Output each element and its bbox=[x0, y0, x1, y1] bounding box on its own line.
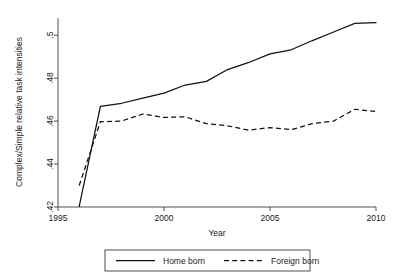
chart-figure: .42.44.46.48.5 1995200020052010 Complex/… bbox=[0, 0, 402, 278]
x-axis-title: Year bbox=[208, 228, 225, 238]
y-axis-ticks: .42.44.46.48.5 bbox=[45, 31, 58, 213]
legend-label-home-born: Home born bbox=[163, 256, 205, 266]
x-tick-label: 2000 bbox=[155, 213, 174, 223]
x-tick-label: 2010 bbox=[367, 213, 386, 223]
x-axis-ticks: 1995200020052010 bbox=[49, 207, 386, 223]
y-tick-label: .48 bbox=[45, 72, 55, 84]
x-tick-label: 2005 bbox=[261, 213, 280, 223]
y-tick-label: .5 bbox=[45, 31, 55, 38]
x-tick-label: 1995 bbox=[49, 213, 68, 223]
y-tick-label: .42 bbox=[45, 201, 55, 213]
y-axis-title: Complex/Simple relative task intensities bbox=[14, 37, 24, 187]
legend: Home born Foreign born bbox=[105, 250, 319, 271]
y-tick-label: .46 bbox=[45, 115, 55, 127]
series-line-foreign-born bbox=[79, 109, 376, 185]
legend-label-foreign-born: Foreign born bbox=[271, 256, 319, 266]
line-chart: .42.44.46.48.5 1995200020052010 Complex/… bbox=[0, 0, 402, 278]
series-line-home-born bbox=[79, 23, 376, 207]
y-tick-label: .44 bbox=[45, 158, 55, 170]
